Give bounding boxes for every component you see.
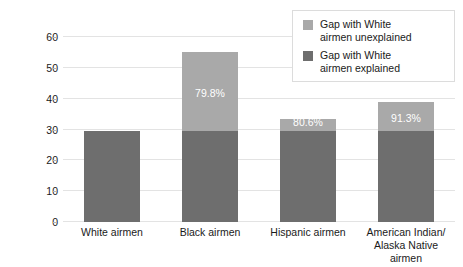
bar-segment-unexplained[interactable]: 91.3%	[378, 102, 434, 130]
bar-group[interactable]	[84, 131, 140, 222]
x-axis-tick-labels: White airmenBlack airmenHispanic airmenA…	[63, 226, 455, 266]
x-axis-tick-label: American Indian/ Alaska Native airmen	[357, 226, 455, 265]
bar-group[interactable]: 79.8%	[182, 52, 238, 222]
legend-swatch-icon	[303, 51, 313, 61]
y-axis-tick-mark	[53, 191, 57, 192]
bar-value-label: 91.3%	[378, 112, 434, 124]
y-axis-tick-marks	[0, 37, 63, 222]
y-axis-tick-mark	[53, 68, 57, 69]
legend: Gap with White airmen unexplainedGap wit…	[292, 10, 455, 82]
bar-segment-explained[interactable]	[280, 131, 336, 222]
gridline	[63, 98, 455, 99]
bar-chart: Rate per 1,000 airmen 0102030405060 79.8…	[0, 0, 463, 267]
bar-group[interactable]: 80.6%	[280, 119, 336, 222]
bar-segment-unexplained[interactable]: 80.6%	[280, 119, 336, 130]
bar-segment-explained[interactable]	[378, 131, 434, 222]
bar-segment-explained[interactable]	[182, 131, 238, 222]
x-axis-tick-label: Black airmen	[161, 226, 259, 239]
y-axis-tick-mark	[53, 37, 57, 38]
legend-item-label: Gap with White airmen explained	[320, 49, 400, 74]
bar-value-label: 79.8%	[182, 87, 238, 99]
legend-item[interactable]: Gap with White airmen explained	[303, 49, 446, 74]
bar-segment-explained[interactable]	[84, 131, 140, 222]
x-axis-tick-label: White airmen	[63, 226, 161, 239]
y-axis-tick-mark	[53, 222, 57, 223]
legend-item-label: Gap with White airmen unexplained	[320, 18, 412, 43]
bar-segment-unexplained[interactable]: 79.8%	[182, 52, 238, 130]
legend-swatch-icon	[303, 20, 313, 30]
bar-value-label: 80.6%	[280, 116, 336, 128]
legend-item[interactable]: Gap with White airmen unexplained	[303, 18, 446, 43]
y-axis-tick-mark	[53, 99, 57, 100]
x-axis-tick-label: Hispanic airmen	[259, 226, 357, 239]
y-axis-tick-mark	[53, 160, 57, 161]
bar-group[interactable]: 91.3%	[378, 102, 434, 222]
y-axis-tick-mark	[53, 130, 57, 131]
